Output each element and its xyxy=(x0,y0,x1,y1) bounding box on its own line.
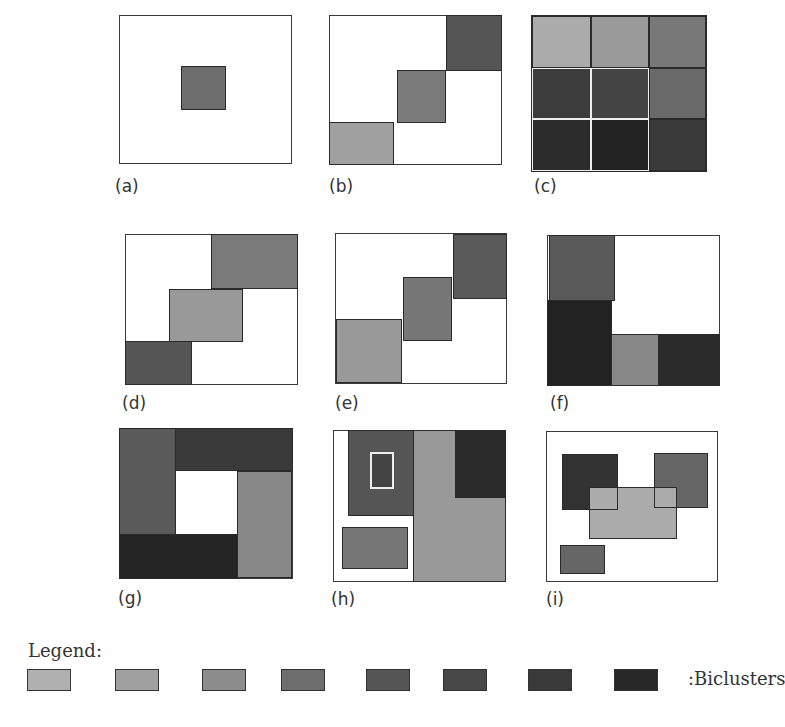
bicluster xyxy=(532,68,591,119)
bicluster xyxy=(413,430,506,582)
legend-swatch-6 xyxy=(443,669,487,691)
panel-label-h: (h) xyxy=(331,589,355,609)
legend-swatch-2 xyxy=(115,669,159,691)
bicluster xyxy=(211,234,298,289)
legend-label: :Biclusters xyxy=(688,668,785,689)
bicluster xyxy=(125,341,192,385)
bicluster xyxy=(649,16,706,68)
bicluster xyxy=(119,428,176,535)
bicluster-overlap xyxy=(589,487,618,510)
bicluster xyxy=(649,119,706,171)
bicluster xyxy=(348,430,414,516)
bicluster xyxy=(446,15,502,71)
panel-label-a: (a) xyxy=(115,176,139,196)
panel-g xyxy=(119,428,293,579)
legend-swatch-1 xyxy=(27,669,71,691)
legend-swatch-7 xyxy=(528,669,572,691)
bicluster xyxy=(649,68,706,119)
bicluster xyxy=(532,16,591,68)
bicluster xyxy=(591,119,649,171)
panel-label-e: (e) xyxy=(335,393,359,413)
panel-b xyxy=(329,15,502,165)
panel-e xyxy=(335,233,507,384)
bicluster xyxy=(329,122,394,165)
legend-swatch-4 xyxy=(281,669,325,691)
bicluster-overlap xyxy=(654,487,677,508)
bicluster xyxy=(336,319,402,383)
bicluster xyxy=(611,334,659,386)
bicluster xyxy=(591,68,649,119)
legend-swatch-5 xyxy=(366,669,410,691)
bicluster xyxy=(549,235,615,301)
panel-c xyxy=(531,15,707,172)
panel-label-b: (b) xyxy=(329,176,353,196)
bicluster xyxy=(453,234,507,299)
panel-label-f: (f) xyxy=(550,393,569,413)
bicluster xyxy=(560,545,605,574)
panel-label-i: (i) xyxy=(546,589,564,609)
bicluster xyxy=(175,428,293,471)
bicluster xyxy=(119,534,238,579)
bicluster xyxy=(237,471,292,578)
legend-swatch-8 xyxy=(614,669,658,691)
panel-i xyxy=(546,431,718,582)
bicluster xyxy=(403,277,452,341)
bicluster xyxy=(397,70,446,123)
bicluster xyxy=(181,66,226,110)
bicluster xyxy=(658,334,720,386)
bicluster xyxy=(591,16,649,68)
panel-label-g: (g) xyxy=(118,588,142,608)
bicluster-inner xyxy=(455,431,506,498)
panel-d xyxy=(125,234,298,385)
panel-f xyxy=(547,235,720,386)
bicluster xyxy=(342,527,408,569)
bicluster-inner xyxy=(370,452,394,489)
panel-label-d: (d) xyxy=(122,393,146,413)
bicluster xyxy=(547,300,612,386)
legend-title: Legend: xyxy=(28,640,102,661)
bicluster xyxy=(169,289,243,342)
legend-swatch-3 xyxy=(202,669,246,691)
bicluster xyxy=(532,119,591,171)
panel-h xyxy=(333,430,506,582)
panel-label-c: (c) xyxy=(534,176,557,196)
panel-a xyxy=(119,15,292,164)
